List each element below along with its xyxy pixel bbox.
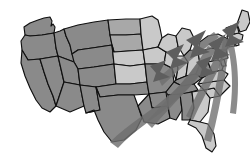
state-or: [21, 33, 58, 60]
us-flow-map-figure: [0, 0, 250, 165]
state-ks: [114, 64, 147, 84]
us-map-svg: [0, 0, 250, 165]
state-sd: [110, 34, 143, 52]
state-nd: [108, 19, 141, 35]
